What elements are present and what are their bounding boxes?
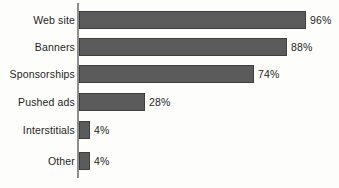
bar-interstitials [79, 121, 90, 139]
bar-row-sponsorships: Sponsorships 74% [0, 65, 339, 83]
bar-banners [79, 38, 287, 56]
bar-pushed-ads [79, 93, 145, 111]
category-label-sponsorships: Sponsorships [10, 65, 75, 83]
bar-chart: Web site 96% Banners 88% Sponsorships 74… [0, 0, 339, 188]
category-label-other: Other [48, 152, 75, 170]
bar-row-banners: Banners 88% [0, 38, 339, 56]
bar-row-pushed-ads: Pushed ads 28% [0, 93, 339, 111]
value-label-pushed-ads: 28% [149, 93, 171, 111]
value-label-banners: 88% [291, 38, 313, 56]
bar-row-web-site: Web site 96% [0, 11, 339, 29]
value-label-other: 4% [94, 152, 110, 170]
value-label-web-site: 96% [310, 11, 332, 29]
value-label-sponsorships: 74% [258, 65, 280, 83]
category-label-pushed-ads: Pushed ads [18, 93, 75, 111]
bar-sponsorships [79, 65, 254, 83]
bar-rows: Web site 96% Banners 88% Sponsorships 74… [0, 0, 339, 188]
bar-row-interstitials: Interstitials 4% [0, 121, 339, 139]
category-label-banners: Banners [35, 38, 75, 56]
bar-web-site [79, 11, 306, 29]
category-label-interstitials: Interstitials [23, 121, 75, 139]
bar-other [79, 152, 90, 170]
value-label-interstitials: 4% [94, 121, 110, 139]
bar-row-other: Other 4% [0, 152, 339, 170]
category-label-web-site: Web site [33, 11, 75, 29]
